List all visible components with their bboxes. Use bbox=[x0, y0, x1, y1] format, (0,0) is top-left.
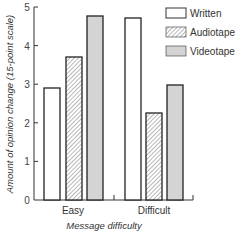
legend-label-videotape: Videotape bbox=[190, 46, 235, 57]
bar-videotape-difficult bbox=[167, 85, 183, 200]
y-tick-label: 2 bbox=[24, 118, 30, 129]
bar-audiotape-easy bbox=[66, 57, 82, 200]
legend-swatch-videotape bbox=[166, 46, 186, 56]
legend-swatch-written bbox=[166, 8, 186, 18]
legend-label-written: Written bbox=[190, 8, 222, 19]
x-category-difficult: Difficult bbox=[138, 205, 171, 216]
legend-swatch-audiotape bbox=[166, 27, 186, 37]
x-category-easy: Easy bbox=[62, 205, 84, 216]
legend: Written Audiotape Videotape bbox=[166, 8, 235, 57]
bar-chart: 5 4 3 2 1 0 Amount of opinion change (15… bbox=[0, 0, 235, 234]
bar-videotape-easy bbox=[87, 16, 103, 200]
bar-audiotape-difficult bbox=[146, 113, 162, 200]
y-axis: 5 4 3 2 1 0 Amount of opinion change (15… bbox=[4, 2, 38, 206]
bar-group-easy bbox=[44, 16, 103, 200]
x-axis-title: Message difficulty bbox=[66, 220, 143, 231]
legend-label-audiotape: Audiotape bbox=[190, 27, 235, 38]
bar-written-easy bbox=[44, 88, 60, 200]
y-axis-title: Amount of opinion change (15-point scale… bbox=[4, 15, 15, 195]
y-tick-label: 3 bbox=[24, 79, 30, 90]
bar-written-difficult bbox=[125, 18, 141, 200]
y-tick-label: 0 bbox=[24, 195, 30, 206]
y-tick-label: 1 bbox=[24, 156, 30, 167]
y-tick-label: 5 bbox=[24, 2, 30, 13]
y-tick-label: 4 bbox=[24, 41, 30, 52]
bar-group-difficult bbox=[125, 18, 183, 200]
